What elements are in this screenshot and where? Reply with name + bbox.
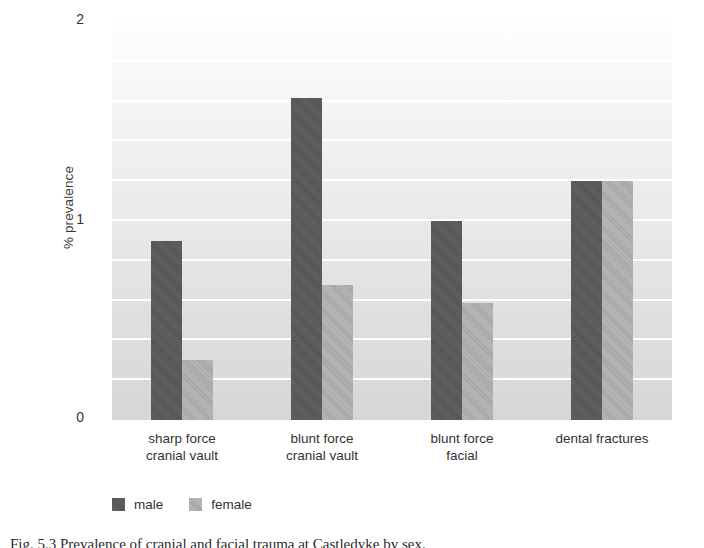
x-axis-label-4: dental fractures [532, 430, 672, 447]
x-axis-label-2: blunt forcecranial vault [252, 430, 392, 464]
legend-label: female [211, 497, 252, 512]
female-swatch [189, 498, 202, 511]
y-axis-tick-label-2: 2 [54, 11, 84, 27]
legend-label: male [134, 497, 163, 512]
x-axis-label-line: blunt force [392, 430, 532, 447]
legend-item-female: female [189, 497, 252, 512]
bar-male-1 [151, 241, 182, 420]
x-axis-label-line: cranial vault [112, 447, 252, 464]
x-axis-label-line: dental fractures [532, 430, 672, 447]
y-axis-title: % prevalence [61, 128, 76, 288]
bar-female-4 [602, 181, 633, 420]
legend-item-male: male [112, 497, 163, 512]
x-axis-label-line: blunt force [252, 430, 392, 447]
bar-female-2 [322, 285, 353, 420]
y-axis-tick-label-0: 0 [54, 409, 84, 425]
bar-male-4 [571, 181, 602, 420]
bar-female-3 [462, 303, 493, 420]
x-axis-label-1: sharp forcecranial vault [112, 430, 252, 464]
bar-chart-figure: % prevalence 2 1 0 sharp forcecranial va… [0, 0, 704, 548]
bar-male-2 [291, 98, 322, 420]
bar-female-1 [182, 360, 213, 420]
y-axis-tick-label-1: 1 [54, 211, 84, 227]
x-axis-label-line: facial [392, 447, 532, 464]
x-axis-label-3: blunt forcefacial [392, 430, 532, 464]
plot-area [112, 22, 672, 420]
bars-layer [112, 22, 672, 420]
x-axis-label-line: cranial vault [252, 447, 392, 464]
male-swatch [112, 498, 125, 511]
chart-legend: malefemale [112, 497, 252, 512]
x-axis-label-line: sharp force [112, 430, 252, 447]
bar-male-3 [431, 221, 462, 420]
figure-caption: Fig. 5.3 Prevalence of cranial and facia… [10, 534, 694, 548]
